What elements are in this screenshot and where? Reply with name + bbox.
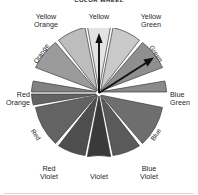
label-blue-green-line2: Green — [170, 99, 198, 107]
figure-title: COLOR WHEEL — [0, 0, 198, 4]
label-yellow-orange-line2: Orange — [23, 21, 69, 29]
footer-divider — [4, 193, 194, 194]
color-wheel-figure: COLOR WHEEL — [0, 0, 198, 195]
label-violet-text: Violet — [76, 173, 122, 181]
label-yellow: Yellow — [76, 13, 122, 21]
label-blue-violet-line2: Violet — [126, 173, 172, 181]
label-red-orange-line2: Orange — [0, 99, 30, 107]
label-yellow-text: Yellow — [76, 13, 122, 21]
label-blue-violet: Blue Violet — [126, 165, 172, 182]
label-blue-green: Blue Green — [170, 91, 198, 108]
label-yellow-green-line2: Green — [128, 21, 174, 29]
label-yellow-orange: Yellow Orange — [23, 13, 69, 30]
label-yellow-green: Yellow Green — [128, 13, 174, 30]
label-red-violet-line2: Violet — [26, 173, 72, 181]
label-red-violet: Red Violet — [26, 165, 72, 182]
label-violet: Violet — [76, 173, 122, 181]
label-red-orange: Red Orange — [0, 91, 30, 108]
